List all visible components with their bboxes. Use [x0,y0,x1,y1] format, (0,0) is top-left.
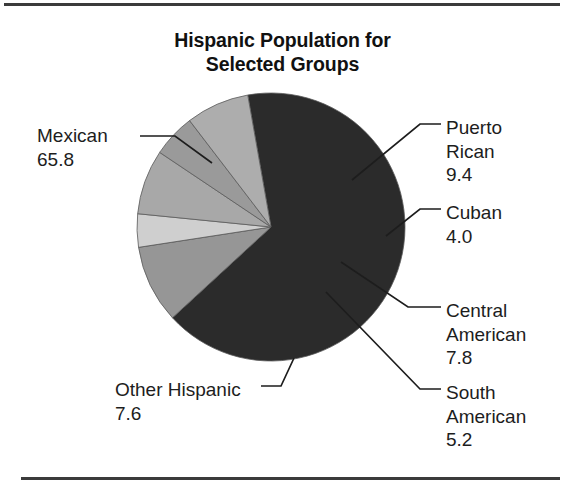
pie-label-south-american-name-1: South [446,381,526,405]
pie-label-central-american-name-1: Central [446,299,526,323]
pie-label-puerto-rican-value: 9.4 [446,163,502,187]
pie-label-puerto-rican-name-2: Rican [446,140,502,164]
pie-label-other-hispanic-value: 7.6 [115,402,241,426]
pie-label-central-american: Central American 7.8 [446,299,526,370]
pie-label-mexican-value: 65.8 [37,148,108,172]
pie-label-central-american-value: 7.8 [446,346,526,370]
pie-label-mexican-name: Mexican [37,124,108,148]
pie-label-puerto-rican: Puerto Rican 9.4 [446,116,502,187]
pie-label-south-american-name-2: American [446,405,526,429]
pie-label-other-hispanic: Other Hispanic 7.6 [115,378,241,425]
pie-label-puerto-rican-name-1: Puerto [446,116,502,140]
pie-label-mexican: Mexican 65.8 [37,124,108,171]
pie-label-cuban-name: Cuban [446,201,502,225]
pie-label-south-american: South American 5.2 [446,381,526,452]
pie-slice-group [137,93,405,361]
pie-label-cuban: Cuban 4.0 [446,201,502,248]
pie-label-cuban-value: 4.0 [446,225,502,249]
chart-figure: Hispanic Population for Selected Groups … [0,0,565,489]
pie-label-central-american-name-2: American [446,323,526,347]
pie-label-south-american-value: 5.2 [446,428,526,452]
leader-line-other-hispanic [261,358,294,386]
pie-label-other-hispanic-name: Other Hispanic [115,378,241,402]
